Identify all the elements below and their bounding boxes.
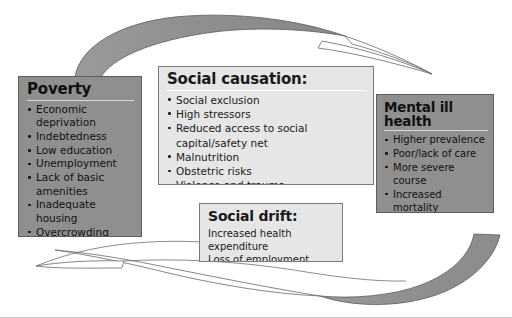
node-mental-ill-health-title-rule: [384, 130, 488, 131]
diagram-canvas: Poverty Economic deprivation Indebtednes…: [0, 0, 512, 318]
node-mental-ill-health-title: Mental ill health: [384, 100, 488, 128]
node-social-drift-title: Social drift:: [208, 209, 336, 224]
node-poverty-list: Economic deprivation Indebtedness Low ed…: [27, 103, 134, 237]
node-poverty-title: Poverty: [27, 82, 134, 98]
list-item: Poor/lack of care: [384, 147, 488, 161]
node-social-causation-title: Social causation:: [167, 72, 367, 88]
list-item: Malnutrition: [167, 150, 367, 164]
list-item: Low education: [27, 144, 134, 158]
node-social-causation-list: Social exclusion High stressors Reduced …: [167, 93, 367, 185]
list-item: Violence and trauma: [167, 178, 367, 185]
list-item: Higher prevalence: [384, 133, 488, 147]
node-social-causation-title-rule: [167, 90, 367, 91]
node-mental-ill-health: Mental ill health Higher prevalence Poor…: [376, 94, 494, 213]
bottom-arrow-band-right: [320, 234, 500, 305]
node-social-drift-list: Increased health expenditure Loss of emp…: [208, 227, 336, 262]
list-item: Overcrowding: [27, 226, 134, 237]
node-poverty: Poverty Economic deprivation Indebtednes…: [18, 76, 142, 237]
node-social-drift: Social drift: Increased health expenditu…: [199, 203, 343, 262]
list-item: Inadequate housing: [27, 198, 134, 225]
list-item: Obstetric risks: [167, 164, 367, 178]
list-item: Increased mortality: [384, 188, 488, 213]
list-item: Social exclusion: [167, 93, 367, 107]
node-mental-ill-health-list: Higher prevalence Poor/lack of care More…: [384, 133, 488, 213]
list-item: Increased health expenditure: [208, 227, 336, 253]
list-item: Indebtedness: [27, 130, 134, 144]
node-social-causation: Social causation: Social exclusion High …: [158, 66, 374, 185]
list-item: Loss of employment: [208, 253, 336, 262]
node-poverty-title-rule: [27, 100, 134, 101]
list-item: Unemployment: [27, 157, 134, 171]
bottom-arrow-head: [36, 261, 124, 268]
list-item: Lack of basic amenities: [27, 171, 134, 198]
list-item: Reduced access to social capital/safety …: [167, 121, 367, 150]
list-item: Economic deprivation: [27, 103, 134, 130]
list-item: High stressors: [167, 107, 367, 121]
list-item: More severe course: [384, 161, 488, 188]
